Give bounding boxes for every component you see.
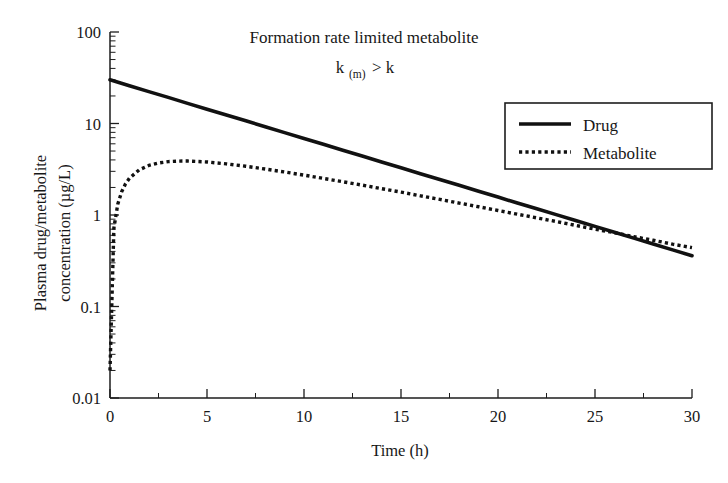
chart-legend: Drug Metabolite (505, 103, 712, 169)
y-axis-tick-labels: 0.010.1110100 (72, 23, 101, 408)
x-tick-label-15: 15 (393, 407, 410, 426)
chart-subtitle: k (m) > k (336, 58, 395, 81)
y-axis-label: Plasma drug/metabolite concentration (µg… (31, 155, 74, 311)
x-tick-label-25: 25 (587, 407, 604, 426)
x-tick-label-20: 20 (490, 407, 507, 426)
chart-subtitle-rest: > k (372, 58, 395, 77)
x-axis-label: Time (h) (371, 441, 429, 460)
x-axis-ticks (110, 389, 692, 398)
x-tick-label-5: 5 (203, 407, 211, 426)
y-axis-label-line2: concentration (µg/L) (55, 164, 74, 301)
series-line-metabolite (110, 161, 692, 370)
chart-subtitle-base: k (336, 58, 345, 77)
y-tick-label-0.1: 0.1 (80, 298, 101, 317)
legend-label-metabolite: Metabolite (583, 144, 657, 163)
y-tick-label-0.01: 0.01 (72, 389, 101, 408)
y-tick-label-100: 100 (76, 23, 101, 42)
chart-canvas: Formation rate limited metabolite k (m) … (0, 0, 728, 483)
chart-subtitle-subscript: (m) (349, 68, 366, 81)
legend-label-drug: Drug (583, 116, 618, 135)
x-axis-tick-labels: 051015202530 (106, 407, 700, 426)
y-tick-label-1: 1 (93, 206, 101, 225)
y-tick-label-10: 10 (85, 115, 102, 134)
x-tick-label-0: 0 (106, 407, 114, 426)
x-tick-label-10: 10 (296, 407, 313, 426)
chart-title: Formation rate limited metabolite (250, 28, 479, 47)
y-axis-minor-ticks (110, 36, 116, 370)
figure-container: Formation rate limited metabolite k (m) … (0, 0, 728, 483)
y-axis-label-line1: Plasma drug/metabolite (31, 155, 50, 311)
x-tick-label-30: 30 (684, 407, 701, 426)
